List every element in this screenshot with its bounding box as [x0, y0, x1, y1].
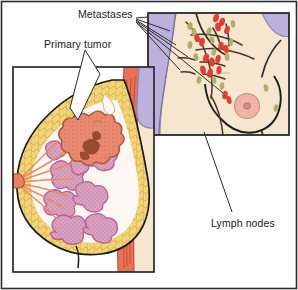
rib-bone: [137, 67, 154, 128]
torso-inset-panel: [148, 13, 289, 138]
nipple: [244, 103, 251, 109]
label-metastases: Metastases: [78, 8, 133, 20]
label-primary-tumor: Primary tumor: [44, 38, 111, 50]
figure-breast-cancer-metastasis: Metastases Primary tumor Lymph nodes: [0, 0, 298, 290]
label-lymph-nodes: Lymph nodes: [211, 217, 275, 229]
